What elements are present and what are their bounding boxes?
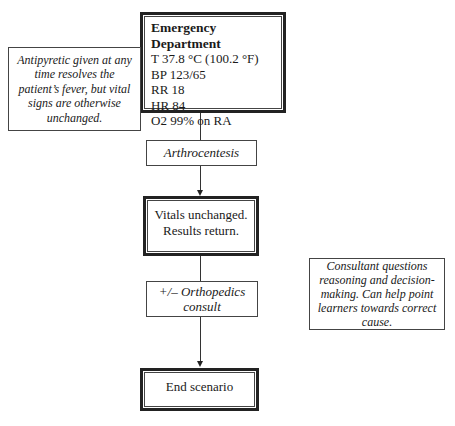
orthopedics-consult-node: +/– Orthopedics consult xyxy=(146,281,258,317)
emergency-department-node: Emergency Department T 37.8 °C (100.2 °F… xyxy=(140,12,286,113)
vital-hr: HR 84 xyxy=(151,98,275,114)
connector-arthrocentesis-to-vitals xyxy=(200,166,201,191)
node-line: Vitals unchanged. xyxy=(154,207,247,223)
node-title: Emergency Department xyxy=(151,20,275,51)
note-text: Consultant questions reasoning and decis… xyxy=(314,259,440,329)
note-consultant: Consultant questions reasoning and decis… xyxy=(309,258,445,330)
end-scenario-node: End scenario xyxy=(140,368,259,411)
arthrocentesis-node: Arthrocentesis xyxy=(146,140,257,166)
arrowhead-icon xyxy=(197,361,203,367)
connector-ortho-to-end xyxy=(200,317,201,362)
node-line: consult xyxy=(183,299,221,314)
vital-temperature: T 37.8 °C (100.2 °F) xyxy=(151,51,275,67)
vital-o2: O2 99% on RA xyxy=(151,113,275,129)
note-text: Antipyretic given at any time resolves t… xyxy=(13,53,136,126)
vital-bp: BP 123/65 xyxy=(151,67,275,83)
vital-rr: RR 18 xyxy=(151,82,275,98)
vitals-unchanged-node: Vitals unchanged. Results return. xyxy=(143,196,259,256)
node-line: +/– Orthopedics xyxy=(159,284,245,299)
node-line: Results return. xyxy=(163,223,239,239)
node-label: Arthrocentesis xyxy=(164,145,239,161)
connector-vitals-to-ortho xyxy=(200,256,201,281)
node-label: End scenario xyxy=(166,379,234,395)
note-antipyretic: Antipyretic given at any time resolves t… xyxy=(8,47,141,131)
